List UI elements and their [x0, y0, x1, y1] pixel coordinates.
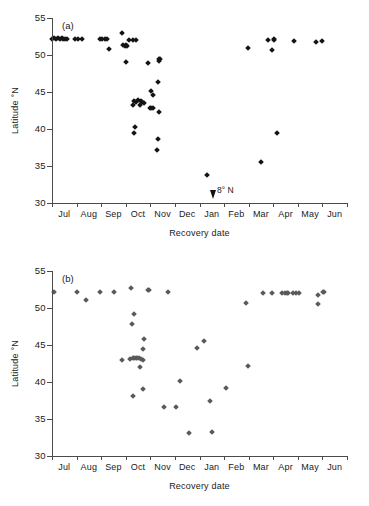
panel-b-data-point — [207, 398, 213, 404]
panel-b-x-axis-title: Recovery date — [52, 481, 347, 491]
panel-a-data-point — [259, 159, 265, 165]
panel-a-x-tick — [347, 203, 348, 207]
panel-b-data-point — [269, 290, 275, 296]
panel-b-data-point — [161, 404, 167, 410]
panel-b-data-point — [140, 387, 146, 393]
panel-a-y-tick-label: 30 — [20, 198, 46, 208]
panel-a-data-point — [154, 147, 160, 153]
panel-a-data-point — [145, 60, 151, 66]
panel-b-data-point — [84, 297, 90, 303]
panel-a-y-tick-label: 35 — [20, 161, 46, 171]
panel-a-data-point — [245, 45, 251, 51]
panel-b-data-point — [174, 404, 180, 410]
panel-a-y-tick-label: 40 — [20, 124, 46, 134]
panel-b-data-point — [119, 357, 125, 363]
panel-b-plot: 303540455055JulAugSepOctNovDecJanFebMarA… — [52, 271, 347, 456]
panel-b-data-point — [209, 429, 215, 435]
panel-b-data-point — [131, 311, 137, 317]
panel-a-data-point — [155, 136, 161, 142]
panel-a-y-axis — [52, 18, 53, 203]
panel-a-plot: 303540455055JulAugSepOctNovDecJanFebMarA… — [52, 18, 347, 203]
panel-b-x-tick-label: Jun — [318, 462, 352, 472]
panel-b-data-point — [130, 393, 136, 399]
panel-b-y-tick-label: 45 — [20, 340, 46, 350]
panel-b-data-point — [177, 378, 183, 384]
panel-a-data-point — [123, 59, 129, 65]
panel-b-data-point — [137, 364, 143, 370]
panel-b-y-tick-label: 55 — [20, 266, 46, 276]
panel-b-data-point — [140, 357, 146, 363]
panel-b-data-point — [194, 345, 200, 351]
panel-a-data-point — [274, 130, 280, 136]
panel-b-data-point — [186, 430, 192, 436]
panel-a-data-point — [313, 39, 319, 45]
panel-a-data-point — [265, 37, 271, 43]
panel-b-x-tick — [347, 456, 348, 460]
panel-b-data-point — [147, 287, 153, 293]
panel-a-plot-area: 303540455055JulAugSepOctNovDecJanFebMarA… — [52, 18, 347, 203]
panel-b-y-tick-label: 50 — [20, 303, 46, 313]
panel-b-data-point — [261, 290, 267, 296]
panel-b-y-axis — [52, 271, 53, 456]
panel-b-data-point — [223, 385, 229, 391]
panel-b-y-tick-label: 40 — [20, 377, 46, 387]
panel-b-data-point — [129, 321, 135, 327]
panel-a-data-point — [269, 47, 275, 53]
panel-b-data-point — [141, 336, 147, 342]
panel-b-data-point — [128, 285, 134, 291]
panel-b-y-tick-label: 30 — [20, 451, 46, 461]
panel-a-y-tick-label: 45 — [20, 87, 46, 97]
panel-a-y-axis-title: Latitude °N — [10, 18, 24, 203]
panel-b-data-point — [97, 290, 103, 296]
panel-a: (a) Latitude °N 303540455055JulAugSepOct… — [0, 0, 369, 253]
panel-a-x-axis-title: Recovery date — [52, 228, 347, 238]
panel-a-annotation-arrow-icon — [210, 190, 216, 199]
panel-a-data-point — [291, 38, 297, 44]
panel-b-data-point — [315, 301, 321, 307]
panel-a-data-point — [132, 124, 138, 130]
figure-two-panel-scatter: (a) Latitude °N 303540455055JulAugSepOct… — [0, 0, 369, 506]
panel-b-y-tick-label: 35 — [20, 414, 46, 424]
panel-b-data-point — [74, 289, 80, 295]
panel-a-data-point — [106, 46, 112, 52]
panel-b-data-point — [202, 338, 208, 344]
panel-b-data-point — [141, 347, 147, 353]
panel-a-data-point — [320, 38, 326, 44]
panel-a-data-point — [79, 36, 85, 42]
panel-b-data-point — [296, 290, 302, 296]
panel-a-x-axis — [52, 203, 347, 204]
panel-b-data-point — [245, 363, 251, 369]
panel-b-data-point — [243, 300, 249, 306]
panel-a-data-point — [204, 172, 210, 178]
panel-a-annotation-label: 8° N — [217, 185, 234, 195]
panel-a-x-tick-label: Jun — [318, 209, 352, 219]
panel-a-y-tick-label: 55 — [20, 13, 46, 23]
panel-b-plot-area: 303540455055JulAugSepOctNovDecJanFebMarA… — [52, 271, 347, 456]
panel-a-data-point — [155, 79, 161, 85]
panel-b: (b) Latitude °N 303540455055JulAugSepOct… — [0, 253, 369, 506]
panel-b-y-axis-title: Latitude °N — [10, 271, 24, 456]
panel-a-data-point — [156, 109, 162, 115]
panel-a-data-point — [131, 131, 137, 137]
panel-a-data-point — [119, 30, 125, 36]
panel-b-x-axis — [52, 456, 347, 457]
panel-a-data-point — [150, 92, 156, 98]
panel-b-data-point — [111, 290, 117, 296]
panel-b-data-point — [165, 290, 171, 296]
panel-a-y-tick-label: 50 — [20, 50, 46, 60]
